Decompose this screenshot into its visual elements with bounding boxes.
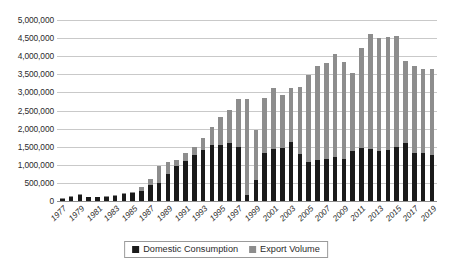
bar-segment-export-volume	[280, 95, 285, 149]
bar-column	[155, 20, 164, 201]
bar-stack	[386, 37, 391, 201]
x-axis-tick	[260, 201, 269, 245]
bar-segment-export-volume	[227, 110, 232, 144]
bar-segment-domestic-consumption	[306, 162, 311, 201]
x-axis-tick	[67, 201, 76, 245]
x-axis-tick: 2005	[304, 201, 313, 245]
bar-stack	[289, 88, 294, 201]
y-axis-tick-label: 4,500,000	[18, 34, 54, 43]
bar-segment-domestic-consumption	[368, 149, 373, 201]
y-axis-tick-label: 4,000,000	[18, 52, 54, 61]
bar-column	[410, 20, 419, 201]
bar-stack	[262, 98, 267, 201]
bar-column	[287, 20, 296, 201]
bar-stack	[183, 153, 188, 201]
bar-segment-domestic-consumption	[421, 153, 426, 201]
plot-area	[57, 20, 437, 201]
x-axis-tick: 1979	[76, 201, 85, 245]
bar-column	[375, 20, 384, 201]
bar-segment-domestic-consumption	[166, 174, 171, 202]
bar-segment-export-volume	[298, 87, 303, 154]
bar-column	[357, 20, 366, 201]
x-axis-tick: 1993	[199, 201, 208, 245]
x-axis-tick	[383, 201, 392, 245]
bar-stack	[315, 66, 320, 201]
bar-segment-export-volume	[201, 138, 206, 149]
bar-column	[111, 20, 120, 201]
bar-segment-export-volume	[254, 130, 259, 180]
bar-segment-domestic-consumption	[192, 155, 197, 201]
legend-swatch-domestic-icon	[132, 246, 139, 253]
bar-segment-domestic-consumption	[289, 142, 294, 201]
bar-stack	[201, 138, 206, 201]
x-axis-tick: 2001	[269, 201, 278, 245]
bar-segment-domestic-consumption	[350, 151, 355, 201]
bar-column	[340, 20, 349, 201]
y-axis-tick-label: 5,000,000	[18, 16, 54, 25]
bar-column	[137, 20, 146, 201]
y-axis-labels: 0500,0001,000,0001,500,0002,000,0002,500…	[0, 20, 54, 201]
bar-stack	[122, 193, 127, 201]
bar-column	[190, 20, 199, 201]
x-axis-tick	[278, 201, 287, 245]
x-axis-tick	[331, 201, 340, 245]
bar-stack	[192, 147, 197, 201]
bar-column	[366, 20, 375, 201]
bar-stack	[218, 117, 223, 201]
legend-swatch-export-icon	[249, 246, 256, 253]
x-axis-tick	[243, 201, 252, 245]
y-axis-tick-label: 1,500,000	[18, 142, 54, 151]
bar-segment-export-volume	[210, 127, 215, 145]
bar-stack	[157, 166, 162, 201]
bar-segment-domestic-consumption	[377, 151, 382, 201]
bar-segment-domestic-consumption	[227, 143, 232, 201]
bar-segment-export-volume	[166, 162, 171, 174]
bar-segment-domestic-consumption	[157, 183, 162, 201]
x-axis-tick	[120, 201, 129, 245]
bar-segment-domestic-consumption	[262, 153, 267, 201]
bar-column	[128, 20, 137, 201]
legend-label: Domestic Consumption	[143, 244, 238, 255]
y-axis-tick-label: 3,500,000	[18, 70, 54, 79]
y-axis-tick-label: 2,000,000	[18, 124, 54, 133]
bar-stack	[139, 187, 144, 201]
bar-segment-domestic-consumption	[254, 180, 259, 201]
y-axis-tick-label: 500,000	[24, 178, 54, 187]
bar-segment-domestic-consumption	[280, 148, 285, 201]
bar-segment-export-volume	[342, 62, 347, 159]
x-axis-tick	[172, 201, 181, 245]
bar-segment-domestic-consumption	[386, 150, 391, 201]
bar-column	[225, 20, 234, 201]
bar-stack	[421, 69, 426, 201]
bar-segment-domestic-consumption	[183, 161, 188, 201]
bar-stack	[130, 192, 135, 201]
x-axis-tick: 2003	[287, 201, 296, 245]
bar-column	[208, 20, 217, 201]
x-axis-tick: 1999	[252, 201, 261, 245]
bar-stack	[342, 62, 347, 201]
x-axis-tick: 1987	[146, 201, 155, 245]
bar-column	[419, 20, 428, 201]
bar-stack	[166, 162, 171, 201]
bar-column	[76, 20, 85, 201]
bar-stack	[174, 160, 179, 201]
y-axis-tick-label: 1,000,000	[18, 160, 54, 169]
x-axis-tick	[419, 201, 428, 245]
bar-segment-export-volume	[350, 73, 355, 151]
x-axis-tick: 1985	[128, 201, 137, 245]
bar-segment-domestic-consumption	[210, 145, 215, 201]
bar-segment-export-volume	[324, 63, 329, 159]
x-axis-labels: 1977197919811983198519871989199119931995…	[57, 201, 437, 245]
bar-segment-domestic-consumption	[148, 185, 153, 201]
bar-segment-export-volume	[315, 66, 320, 160]
bar-segment-export-volume	[359, 48, 364, 148]
bars-container	[57, 20, 437, 201]
bar-stack	[403, 61, 408, 201]
bar-column	[313, 20, 322, 201]
bar-segment-export-volume	[245, 99, 250, 195]
bar-segment-export-volume	[306, 75, 311, 162]
bar-column	[164, 20, 173, 201]
bar-stack	[148, 179, 153, 201]
x-axis-tick: 2015	[392, 201, 401, 245]
bar-column	[146, 20, 155, 201]
